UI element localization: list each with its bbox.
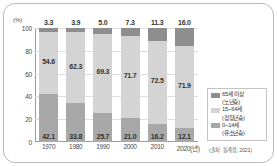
- x-tick-label: 2010: [148, 143, 167, 153]
- legend-item-working-age: 15~64세: [211, 106, 263, 113]
- bar-value-working-age: 69.3: [96, 68, 109, 75]
- bar-column: 11.372.516.2: [148, 28, 167, 142]
- legend-item-elderly: 65세 이상: [211, 91, 263, 98]
- bar-segment-working-age: 69.3: [93, 34, 112, 113]
- x-tick-label: 1990: [93, 143, 112, 153]
- bar-value-children: 33.8: [69, 133, 82, 140]
- bar-segment-children: 33.8: [66, 103, 85, 142]
- bar-segment-working-age: 62.3: [66, 32, 85, 103]
- legend-label-elderly: 65세 이상: [222, 91, 244, 98]
- y-axis-tick-labels: 100 80 60 40 20 0: [12, 28, 32, 142]
- bar-segment-children: 42.1: [39, 94, 58, 142]
- bar-value-working-age: 72.5: [151, 77, 164, 84]
- chart-screenshot: (%) 100 80 60 40 20 0 3.354.642.13.962.3…: [0, 0, 277, 166]
- y-tick-40: 40: [25, 93, 32, 100]
- bar-segment-children: 16.2: [148, 124, 167, 142]
- legend-swatch-elderly: [211, 93, 220, 98]
- y-tick-0: 0: [29, 139, 32, 146]
- bar-value-working-age: 71.7: [124, 72, 137, 79]
- bar-value-working-age: 54.6: [42, 58, 55, 65]
- bar-column: 5.069.325.7: [93, 28, 112, 142]
- plot-area: 3.354.642.13.962.333.85.069.325.77.371.7…: [35, 28, 198, 142]
- bar-value-children: 42.1: [42, 133, 55, 140]
- x-tick-label: 1980: [66, 143, 85, 153]
- x-tick-label: 1970: [39, 143, 58, 153]
- y-tick-20: 20: [25, 116, 32, 123]
- bar-segment-working-age: 54.6: [39, 32, 58, 94]
- y-tick-60: 60: [25, 70, 32, 77]
- bar-segment-elderly: [175, 28, 194, 46]
- legend-item-children: 0~14세: [211, 122, 263, 129]
- bar-segment-working-age: 71.9: [175, 46, 194, 128]
- bar-segment-elderly: [148, 28, 167, 41]
- bar-group: 3.354.642.13.962.333.85.069.325.77.371.7…: [35, 28, 198, 142]
- bar-value-working-age: 62.3: [69, 63, 82, 70]
- bar-top-value: 11.3: [151, 19, 163, 26]
- bar-segment-children: 21.0: [121, 118, 140, 142]
- bar-column: 16.071.912.1: [175, 28, 194, 142]
- legend-label-working-age: 15~64세: [222, 106, 242, 113]
- bar-segment-elderly: [121, 28, 140, 36]
- chart-legend: 65세 이상 (노년층) 15~64세 (청장년층) 0~14세 (유소년층): [207, 88, 267, 141]
- bar-segment-children: 25.7: [93, 113, 112, 142]
- bar-top-value: 3.9: [71, 19, 80, 26]
- source-note: (출처: 통계청, 2021): [209, 146, 252, 153]
- bar-value-children: 12.1: [178, 133, 191, 140]
- x-tick-label: 2000: [121, 143, 140, 153]
- legend-sublabel-working-age: (청장년층): [222, 115, 263, 122]
- bar-column: 7.371.721.0: [121, 28, 140, 142]
- y-tick-80: 80: [25, 47, 32, 54]
- bar-column: 3.962.333.8: [66, 28, 85, 142]
- bar-top-value: 16.0: [178, 19, 191, 26]
- bar-value-working-age: 71.9: [178, 82, 191, 89]
- y-tick-100: 100: [22, 25, 32, 32]
- bar-value-children: 25.7: [96, 133, 109, 140]
- y-axis-unit: (%): [13, 17, 22, 23]
- bar-segment-working-age: 71.7: [121, 36, 140, 118]
- bar-top-value: 5.0: [98, 19, 107, 26]
- legend-label-children: 0~14세: [222, 122, 239, 129]
- bar-segment-working-age: 72.5: [148, 41, 167, 124]
- legend-swatch-children: [211, 123, 220, 128]
- x-axis-tick-labels: 197019801990200020102020(년): [35, 143, 198, 153]
- legend-sublabel-children: (유소년층): [222, 130, 263, 137]
- bar-top-value: 7.3: [125, 19, 134, 26]
- legend-swatch-working-age: [211, 108, 220, 113]
- x-tick-label: 2020(년): [177, 143, 196, 153]
- bar-column: 3.354.642.1: [39, 28, 58, 142]
- bar-value-children: 16.2: [151, 133, 164, 140]
- bar-value-children: 21.0: [124, 133, 137, 140]
- bar-top-value: 3.3: [44, 19, 53, 26]
- bar-segment-children: 12.1: [175, 128, 194, 142]
